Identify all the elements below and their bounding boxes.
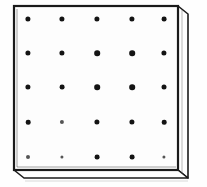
figure-canvas: Perforated plate with dot grid Line draw… (0, 0, 207, 187)
plate-right-side-face (178, 6, 188, 178)
plate-outline-svg (0, 0, 207, 187)
perforated-plate (0, 0, 207, 187)
plate-bottom-bevel-face (14, 170, 188, 178)
plate-front-face (14, 6, 178, 170)
